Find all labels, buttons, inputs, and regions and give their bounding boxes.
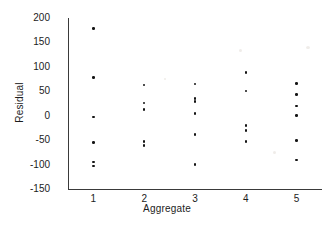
data-point xyxy=(143,108,146,111)
data-point xyxy=(194,83,197,86)
data-point xyxy=(295,82,298,85)
data-point xyxy=(295,93,298,96)
x-axis-line xyxy=(68,189,322,190)
y-tick-label: 200 xyxy=(0,13,50,23)
data-point xyxy=(143,84,146,87)
data-point xyxy=(143,140,146,143)
data-point xyxy=(143,102,146,105)
data-point xyxy=(194,133,197,136)
y-axis-title: Residual xyxy=(14,63,25,143)
data-point xyxy=(295,105,298,108)
scan-speckle xyxy=(164,78,166,80)
data-point xyxy=(194,100,197,103)
data-point xyxy=(245,71,248,74)
data-point xyxy=(92,161,95,164)
y-tick-label: 0 xyxy=(0,111,50,121)
y-tick-label: -150 xyxy=(0,184,50,194)
plot-area: 200150100500-50-100-150 12345 xyxy=(68,18,322,190)
y-axis-line xyxy=(68,18,69,190)
data-point xyxy=(245,129,248,132)
data-point xyxy=(92,27,95,30)
data-point xyxy=(245,124,248,127)
y-tick-label: 50 xyxy=(0,86,50,96)
scan-speckle xyxy=(239,49,242,52)
scatter-plot-figure: Residual 200150100500-50-100-150 12345 A… xyxy=(0,0,334,225)
data-point xyxy=(194,112,197,115)
data-point xyxy=(92,165,95,168)
y-tick-label: 100 xyxy=(0,62,50,72)
data-point xyxy=(92,76,95,79)
data-point xyxy=(245,90,248,93)
y-tick-label: -50 xyxy=(0,135,50,145)
data-point xyxy=(92,116,95,119)
data-point xyxy=(245,140,248,143)
data-point xyxy=(295,139,298,142)
y-tick-label: -100 xyxy=(0,160,50,170)
scan-speckle xyxy=(273,151,276,154)
y-tick-label: 150 xyxy=(0,37,50,47)
data-point xyxy=(295,114,298,117)
data-point xyxy=(143,144,146,147)
data-point xyxy=(92,141,95,144)
data-point xyxy=(295,159,298,162)
scan-speckle xyxy=(306,46,310,49)
data-point xyxy=(194,163,197,166)
x-axis-title: Aggregate xyxy=(0,203,334,214)
